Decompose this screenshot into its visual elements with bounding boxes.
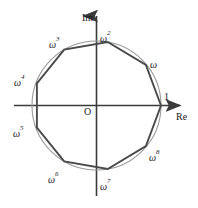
vertex-label-omega-2: ω2 [100, 29, 111, 45]
roots-of-unity-figure: Im Re O 1 ω ω2 ω3 ω4 ω5 ω6 ω7 ω8 [0, 0, 198, 208]
omega-base: ω [150, 59, 157, 70]
figure-canvas [0, 0, 198, 208]
omega4-base: ω [14, 77, 21, 88]
vertex-label-omega-3: ω3 [49, 35, 60, 51]
imaginary-axis-label: Im [82, 13, 93, 23]
omega3-exponent: 3 [56, 35, 60, 43]
vertex-label-omega-8: ω8 [149, 148, 160, 164]
omega7-base: ω [100, 181, 107, 192]
omega7-exponent: 7 [107, 177, 111, 185]
vertex-label-omega-4: ω4 [14, 73, 25, 89]
omega3-base: ω [49, 39, 56, 50]
omega8-exponent: 8 [156, 148, 160, 156]
omega4-exponent: 4 [21, 73, 25, 81]
omega8-base: ω [149, 152, 156, 163]
omega5-base: ω [13, 128, 20, 139]
omega6-exponent: 6 [55, 170, 59, 178]
omega6-base: ω [48, 174, 55, 185]
vertex-label-omega: ω [150, 55, 157, 71]
origin-label: O [84, 107, 91, 117]
vertex-label-omega-7: ω7 [100, 177, 111, 193]
omega2-base: ω [100, 33, 107, 44]
vertex-label-omega-5: ω5 [13, 124, 24, 140]
vertex-label-omega-6: ω6 [48, 170, 59, 186]
omega2-exponent: 2 [107, 29, 111, 37]
vertex-label-1: 1 [164, 92, 169, 102]
real-axis-label: Re [176, 112, 187, 122]
omega5-exponent: 5 [20, 124, 24, 132]
